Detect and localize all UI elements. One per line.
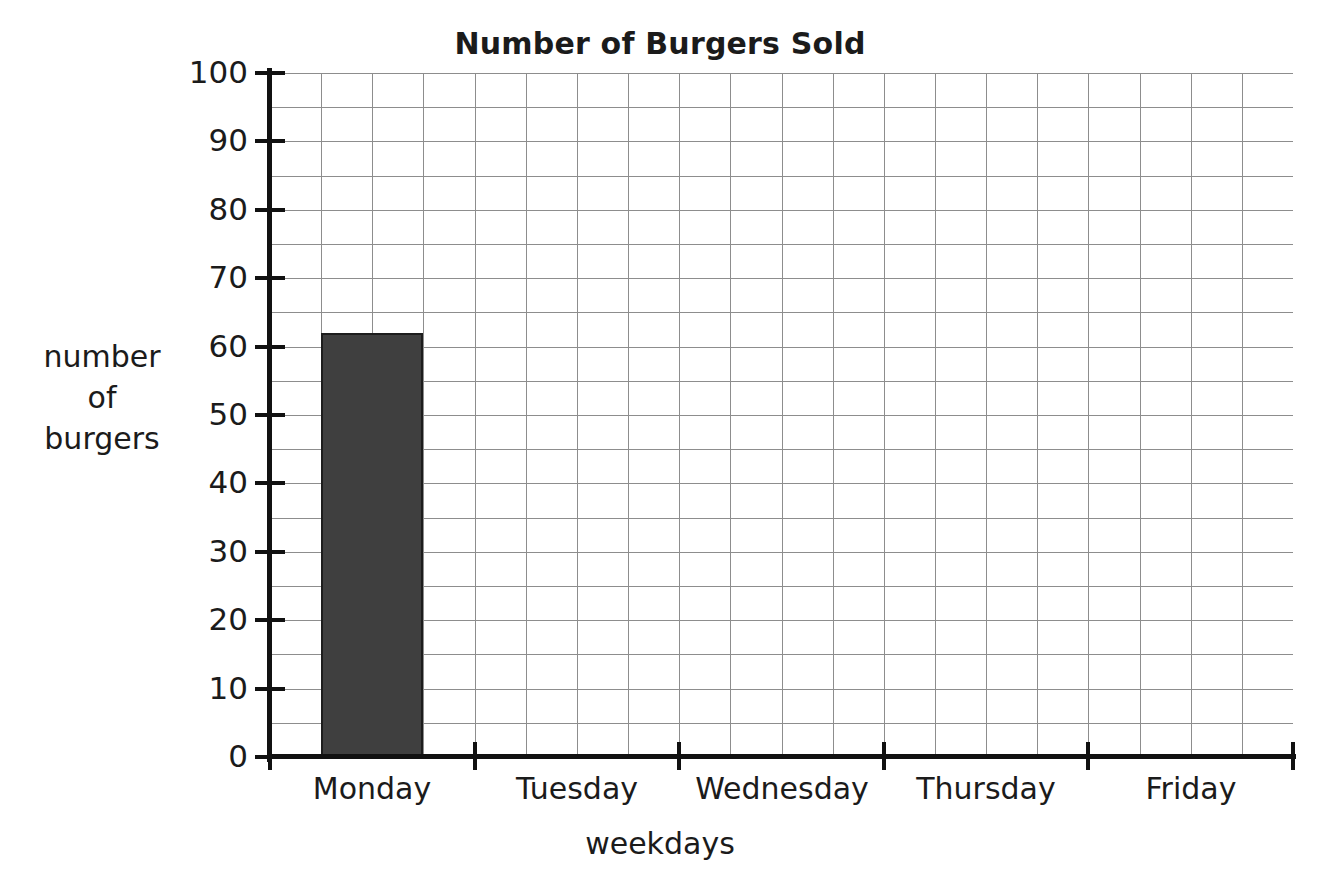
y-axis-tick-label: 60 [209,331,248,362]
y-axis-tick [255,413,285,417]
y-axis-title-line-2: of [14,377,190,418]
y-axis-title-line-1: number [14,336,190,377]
y-axis-tick-label: 0 [228,741,248,772]
y-axis-tick [255,481,285,485]
x-axis-title: weekdays [0,826,1320,861]
y-axis-tick-label: 50 [209,399,248,430]
y-axis-tick [255,208,285,212]
x-axis-category-label: Friday [1146,772,1237,806]
x-axis-tick [882,742,886,770]
bars-layer [270,73,1293,757]
x-axis-line [267,754,1296,759]
x-axis-tick [473,742,477,770]
y-axis-tick [255,618,285,622]
y-axis-title-line-3: burgers [14,418,190,459]
y-axis-tick [255,550,285,554]
x-axis-category-label: Thursday [916,772,1056,806]
x-axis-category-label: Monday [313,772,431,806]
y-axis-tick-label: 20 [209,604,248,635]
y-axis-tick-label: 10 [209,673,248,704]
y-axis-tick-label: 90 [209,125,248,156]
x-axis-category-label: Tuesday [516,772,638,806]
y-axis-tick [255,139,285,143]
y-axis-tick-label: 30 [209,536,248,567]
x-axis-tick [1291,742,1295,770]
y-axis-title: number of burgers [14,336,190,459]
bar-chart: Number of Burgers Sold number of burgers… [0,0,1320,880]
y-axis-tick-label: 100 [189,57,248,88]
y-axis-tick [255,345,285,349]
x-axis-tick [677,742,681,770]
y-axis-tick [255,687,285,691]
y-axis-tick-label: 80 [209,194,248,225]
y-axis-tick [255,71,285,75]
y-axis-tick-label: 70 [209,262,248,293]
x-axis-tick [1086,742,1090,770]
y-axis-tick [255,276,285,280]
x-axis-tick [268,742,272,770]
plot-area [270,73,1293,757]
x-axis-category-label: Wednesday [695,772,869,806]
y-axis-tick-label: 40 [209,467,248,498]
bar [321,333,423,757]
